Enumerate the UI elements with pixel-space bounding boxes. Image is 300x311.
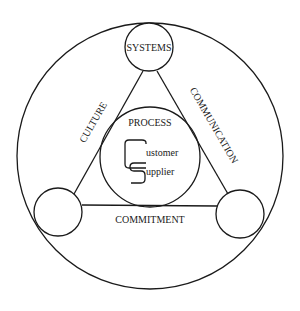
logo-c-icon <box>125 140 146 168</box>
commitment-label: COMMITMENT <box>115 214 184 225</box>
diagram-canvas: SYSTEMS PROCESS CULTURE COMMUNICATION CO… <box>0 0 300 311</box>
edge-commitment-line <box>82 205 217 206</box>
customer-supplier-logo <box>125 140 146 183</box>
systems-label: SYSTEMS <box>126 42 171 53</box>
node-right <box>216 190 264 238</box>
customer-text: ustomer <box>146 147 179 158</box>
logo-s-icon <box>130 163 146 183</box>
process-title: PROCESS <box>128 117 171 128</box>
communication-label: COMMUNICATION <box>188 85 241 165</box>
supplier-text: upplier <box>146 166 175 177</box>
node-left <box>34 188 82 236</box>
